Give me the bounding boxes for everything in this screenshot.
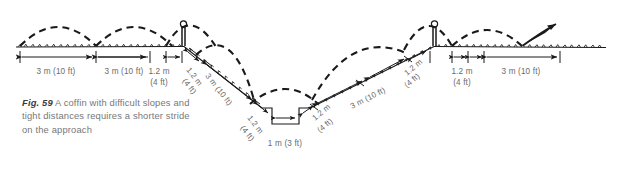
label-upslope-stride: 3 m (10 ft)	[349, 85, 387, 110]
label-takeoff-fence-a-line1: 1.2 m	[148, 67, 169, 76]
label-ditch-width: 1 m (3 ft)	[268, 139, 302, 148]
figure-caption: Fig. 59 A coffin with difficult slopes a…	[22, 96, 197, 136]
label-approach-stride-2: 3 m (10 ft)	[105, 67, 144, 76]
label-departure-stride: 3 m (10 ft)	[502, 67, 541, 76]
label-takeoff-fence-a-line2: (4 ft)	[150, 78, 168, 87]
figure-container: 3 m (10 ft) 3 m (10 ft) 1.2 m (4 ft) 1.2…	[0, 0, 618, 180]
upright-post-fence-left	[180, 21, 186, 46]
label-landing-fence-b-line2: (4 ft)	[453, 78, 471, 87]
label-landing-fence-b-line1: 1.2 m	[451, 67, 472, 76]
stride-trajectory-arcs	[20, 25, 522, 104]
label-downslope-stride: 3 m (10 ft)	[203, 72, 234, 108]
figure-number: Fig. 59	[22, 97, 53, 108]
coffin-jump-diagram: 3 m (10 ft) 3 m (10 ft) 1.2 m (4 ft) 1.2…	[0, 0, 618, 180]
coffin-ditch	[262, 108, 310, 124]
departure-arrow	[522, 24, 556, 46]
upright-post-fence-right	[431, 21, 437, 46]
label-approach-stride-1: 3 m (10 ft)	[37, 67, 76, 76]
slope-dimension-arrows	[188, 51, 426, 113]
